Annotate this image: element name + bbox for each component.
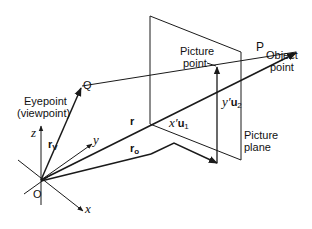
x-u1-sub: 1 <box>184 122 188 131</box>
x-axis <box>18 160 83 211</box>
y-u2-prefix: y′ <box>222 94 231 109</box>
r-v-subscript: V <box>52 143 57 152</box>
y-u2-sub: 2 <box>237 101 241 110</box>
x-u1-label: x′u1 <box>169 117 189 132</box>
object-point-label: point <box>270 62 294 73</box>
q-label: Q <box>83 80 92 91</box>
picture-plane-label-1: Picture <box>244 130 278 141</box>
p-label: P <box>256 42 264 53</box>
r-o-subscript: o <box>134 147 139 156</box>
x-axis-label: x <box>85 203 91 214</box>
picture-plane-label-2: plane <box>244 142 271 153</box>
x-u1-prefix: x′ <box>169 115 178 130</box>
y-axis-label: y <box>93 134 99 145</box>
picture-point-label-2: point <box>183 58 207 69</box>
eyepoint-label: Eyepoint <box>24 96 67 107</box>
z-axis-label: z <box>31 127 36 138</box>
y-u2-label: y′u2 <box>222 96 242 111</box>
r-o-vector <box>41 154 151 181</box>
r-o-label: ro <box>130 143 139 157</box>
viewpoint-label: (viewpoint) <box>17 108 70 119</box>
o-label: O <box>33 189 42 200</box>
object-label: Object <box>266 50 298 61</box>
picture-point-label-1: Picture <box>180 46 214 57</box>
perspective-diagram: Eyepoint (viewpoint) Q O P Object point … <box>0 0 312 229</box>
r-label: r <box>130 116 134 127</box>
r-v-label: rV <box>48 139 58 153</box>
x-u1-vector <box>151 143 217 163</box>
